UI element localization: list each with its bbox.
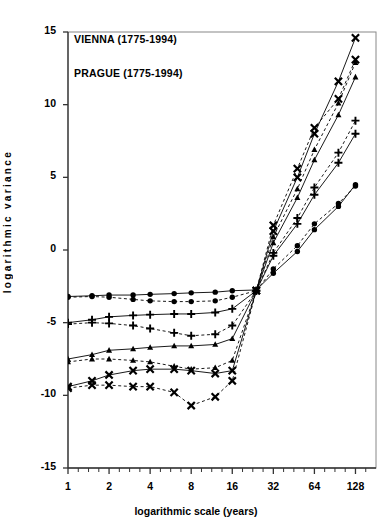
data-point-plus [211,308,219,316]
data-point-circle [189,299,194,304]
data-point-plus [293,214,301,222]
series-line [68,186,355,302]
data-point-circle [189,290,194,295]
series-0 [65,182,358,299]
x-tick-label: 64 [299,480,329,492]
data-point-plus [228,322,236,330]
data-point-plus [334,149,342,157]
x-tick-label: 32 [258,480,288,492]
data-point-triangle [229,335,235,341]
data-point-circle [336,201,341,206]
data-point-circle [230,288,235,293]
x-axis-title: logarithmic scale (years) [0,505,392,517]
series-line [68,185,355,297]
data-point-triangle [352,74,358,80]
data-point-x [188,402,195,409]
data-point-plus [64,320,72,328]
data-point-circle [147,298,152,303]
y-tick-label: 10 [28,97,56,109]
chart-figure: logarithmic variance logarithmic scale (… [0,0,392,531]
data-point-plus [129,311,137,319]
data-point-circle [295,243,300,248]
data-point-circle [353,183,358,188]
data-point-triangle [294,186,300,192]
data-point-circle [171,291,176,296]
y-tick-label: -5 [28,315,56,327]
x-tick-label: 8 [176,480,206,492]
data-point-circle [271,266,276,271]
y-tick-label: 15 [28,24,56,36]
x-tick-label: 4 [135,480,165,492]
series-7 [64,56,359,409]
data-point-plus [105,319,113,327]
data-point-triangle [335,112,341,118]
data-point-x [352,34,359,41]
data-point-triangle [294,194,300,200]
data-point-plus [170,329,178,337]
data-point-plus [146,311,154,319]
y-tick-label: -10 [28,387,56,399]
data-point-circle [295,249,300,254]
chart-canvas [0,0,392,531]
data-point-circle [89,294,94,299]
data-point-circle [312,221,317,226]
data-point-plus [170,310,178,318]
data-point-triangle [311,147,317,153]
x-tick-label: 2 [94,480,124,492]
data-point-x [171,389,178,396]
annotation-prague: PRAGUE (1775-1994) [74,67,183,79]
series-6 [64,34,359,390]
data-point-plus [228,305,236,313]
plot-frame [68,32,376,468]
x-tick-label: 1 [53,480,83,492]
data-point-triangle [229,357,235,363]
y-tick-label: 5 [28,169,56,181]
x-tick-label: 16 [217,480,247,492]
data-point-x [294,165,301,172]
data-point-x [212,393,219,400]
data-point-plus [351,130,359,138]
data-point-circle [213,289,218,294]
data-point-circle [312,227,317,232]
data-point-plus [351,117,359,125]
data-point-plus [187,310,195,318]
data-point-circle [213,298,218,303]
data-point-triangle [270,240,276,246]
data-point-x [229,377,236,384]
data-point-x [105,382,112,389]
data-point-circle [147,292,152,297]
data-point-circle [65,295,70,300]
data-point-circle [130,297,135,302]
data-point-circle [230,295,235,300]
data-point-circle [171,299,176,304]
series-1 [65,183,358,304]
y-tick-label: -15 [28,460,56,472]
y-axis-title: logarithmic variance [2,150,22,293]
data-point-plus [187,332,195,340]
data-point-triangle [311,157,317,163]
data-point-triangle [212,365,218,371]
data-point-plus [129,322,137,330]
data-point-circle [106,295,111,300]
data-point-plus [146,324,154,332]
data-point-plus [334,159,342,167]
y-tick-label: 0 [28,242,56,254]
data-point-triangle [106,356,112,362]
data-point-plus [310,191,318,199]
data-point-x [335,78,342,85]
data-point-plus [211,330,219,338]
annotation-vienna: VIENNA (1775-1994) [74,33,177,45]
data-point-x [88,382,95,389]
y-axis-title-text: logarithmic variance [2,150,13,293]
x-tick-label: 128 [340,480,370,492]
